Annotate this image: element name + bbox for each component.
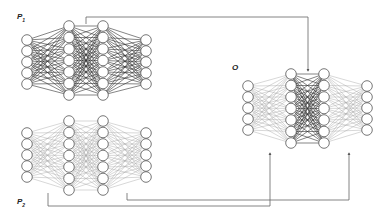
edge	[27, 166, 69, 190]
edge	[248, 130, 291, 132]
neuron-node	[64, 21, 75, 32]
edge	[27, 26, 69, 51]
neuron-node	[22, 172, 33, 183]
neuron-node	[22, 150, 33, 161]
neuron-node	[362, 81, 373, 92]
network-p1	[27, 26, 146, 95]
neuron-node	[141, 68, 152, 79]
edge	[27, 133, 69, 178]
edge	[27, 26, 69, 62]
neuron-node	[362, 103, 373, 114]
network-o	[248, 74, 367, 143]
neuron-node	[64, 162, 75, 173]
label-p2-sub: 2	[22, 202, 25, 208]
edge	[27, 177, 69, 190]
neuron-node	[64, 185, 75, 196]
neuron-node	[64, 173, 75, 184]
edge	[27, 121, 69, 133]
neuron-node	[98, 78, 109, 89]
neuron-node	[286, 126, 297, 137]
edge	[103, 133, 146, 134]
neuron-node	[64, 150, 75, 161]
edge	[103, 177, 146, 190]
neuron-node	[98, 21, 109, 32]
edge	[324, 86, 367, 132]
neuron-node	[98, 116, 109, 127]
neuron-node	[98, 150, 109, 161]
edge	[248, 119, 291, 143]
edges	[27, 26, 367, 190]
neuron-node	[98, 32, 109, 43]
neuron-node	[286, 92, 297, 103]
neuron-node	[64, 139, 75, 150]
edge	[248, 74, 291, 119]
edge	[27, 121, 69, 166]
neuron-node	[22, 128, 33, 139]
neuron-node	[286, 80, 297, 91]
neuron-node	[362, 92, 373, 103]
network-p2	[27, 121, 146, 190]
edge	[248, 74, 291, 86]
neuron-node	[319, 92, 330, 103]
neuron-node	[141, 172, 152, 183]
neuron-node	[319, 103, 330, 114]
edge	[27, 133, 69, 156]
neuron-node	[64, 116, 75, 127]
edge	[27, 177, 69, 179]
neuron-node	[64, 127, 75, 138]
neuron-node	[362, 125, 373, 136]
neuron-node	[141, 139, 152, 150]
edge	[103, 133, 146, 190]
neuron-node	[98, 90, 109, 101]
edge	[324, 74, 367, 86]
neuron-node	[362, 114, 373, 125]
neuron-node	[98, 162, 109, 173]
edge	[27, 84, 69, 95]
connector-arrow-p2-last-to-o-last	[127, 153, 349, 200]
neuron-node	[243, 92, 254, 103]
neuron-node	[286, 115, 297, 126]
neuron-node	[22, 79, 33, 90]
neuron-node	[141, 46, 152, 57]
neuron-node	[98, 185, 109, 196]
label-p2: P2	[17, 197, 25, 208]
edge	[324, 86, 367, 87]
neuron-node	[319, 138, 330, 149]
neuron-node	[319, 69, 330, 80]
neuron-node	[141, 57, 152, 68]
edge	[27, 26, 69, 84]
neuron-node	[319, 80, 330, 91]
neuron-node	[22, 35, 33, 46]
neuron-node	[98, 173, 109, 184]
neuron-node	[64, 78, 75, 89]
neuron-node	[141, 128, 152, 139]
neuron-node	[98, 127, 109, 138]
neuron-node	[64, 67, 75, 78]
edge	[103, 121, 146, 133]
edge	[27, 84, 69, 85]
neuron-node	[22, 161, 33, 172]
neuron-node	[22, 68, 33, 79]
neuron-node	[141, 35, 152, 46]
edge	[103, 133, 146, 156]
neuron-node	[319, 115, 330, 126]
edge	[248, 130, 291, 143]
neuron-node	[64, 44, 75, 55]
edge	[324, 86, 367, 109]
neuron-node	[22, 46, 33, 57]
neuron-node	[141, 79, 152, 90]
edge	[324, 86, 367, 143]
neuron-node	[98, 67, 109, 78]
label-p1: P1	[17, 12, 25, 23]
neuron-node	[98, 44, 109, 55]
neuron-node	[98, 139, 109, 150]
edge	[324, 86, 367, 109]
edge	[103, 84, 146, 95]
neuron-node	[286, 103, 297, 114]
neuron-node	[286, 69, 297, 80]
edge	[103, 166, 146, 190]
neuron-node	[243, 125, 254, 136]
neuron-node	[64, 90, 75, 101]
neuron-node	[64, 32, 75, 43]
edge	[248, 86, 291, 109]
